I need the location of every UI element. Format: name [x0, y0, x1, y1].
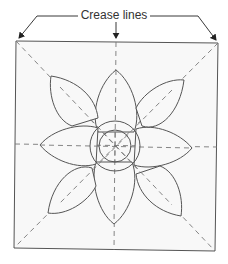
crease-lines-diagram: Crease lines	[0, 0, 228, 264]
crease-lines-label: Crease lines	[0, 8, 228, 22]
quilt-block-figure	[0, 0, 228, 264]
